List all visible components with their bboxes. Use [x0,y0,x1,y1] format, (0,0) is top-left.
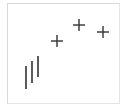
plus-marker-icon [51,35,63,47]
diagram-canvas [0,0,124,108]
vertical-bars-group [26,56,38,89]
plus-marker-icon [73,19,85,31]
plus-markers-group [51,19,109,47]
plus-marker-icon [97,26,109,38]
